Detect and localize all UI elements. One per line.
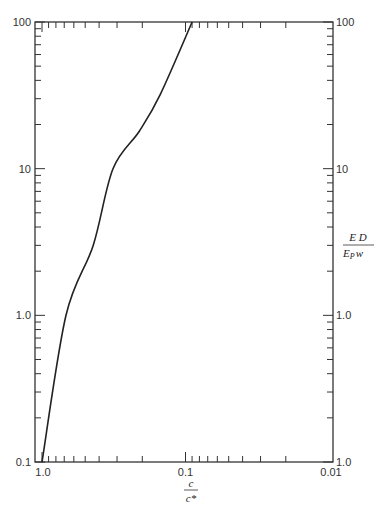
plot-frame [35,22,333,462]
x-label-denominator: c* [186,492,197,504]
y-label-denominator: EPw [342,247,364,261]
x-tick-label: 0.01 [320,466,341,478]
x-label-numerator: c [189,477,194,489]
y-tick-label-left: 10 [19,163,31,175]
chart: 100101.00.1100101.01.01.00.10.01 c c* E … [0,0,385,508]
tick-labels: 100101.00.1100101.01.01.00.10.01 [13,16,355,478]
axis-ticks [35,22,333,462]
y-tick-label-right: 100 [336,16,354,28]
y-tick-label-right: 10 [336,163,348,175]
y-axis-label: E D EPw [342,231,374,261]
y-label-numerator: E D [348,231,366,243]
y-tick-label-left: 0.1 [16,456,31,468]
x-tick-label: 1.0 [35,466,50,478]
y-tick-label-left: 1.0 [16,309,31,321]
plot-border [35,22,333,462]
y-tick-label-left: 100 [13,16,31,28]
y-tick-label-right: 1.0 [336,309,351,321]
x-axis-label: c c* [184,477,198,504]
data-curve [42,22,192,462]
